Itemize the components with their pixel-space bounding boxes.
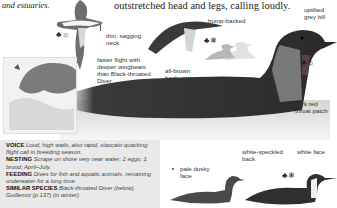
feeding-title: FEEDING xyxy=(6,171,32,177)
nesting-title: NESTING xyxy=(6,156,32,162)
voice-title: VOICE xyxy=(6,142,24,148)
label-throat-patch: dark red throat patch xyxy=(295,100,335,114)
head-season-icons: ♣☼ xyxy=(301,59,316,67)
species-info-box: VOICE Loud, high wails, also rapid, stac… xyxy=(0,140,160,208)
label-striped-nape: striped grey nape xyxy=(198,78,246,85)
intro-text-fragment: and estuaries. xyxy=(2,0,50,10)
flight-caption: outstretched head and legs, calling loud… xyxy=(114,0,290,11)
range-map xyxy=(3,57,77,134)
label-uptilted-bill: uptilted grey bill xyxy=(304,6,336,20)
summer-icon: ☼ xyxy=(307,58,315,67)
label-all-brown-back: all-brown back xyxy=(165,67,195,81)
feeding-entry: FEEDING Dives for fish and aquatic anima… xyxy=(6,171,156,185)
red-throated-diver-main-illustration xyxy=(40,30,337,145)
label-white-face: white face xyxy=(297,148,327,155)
label-speckled-back: white-speckled back xyxy=(242,148,292,162)
voice-entry: VOICE Loud, high wails, also rapid, stac… xyxy=(6,142,156,156)
similar-species-entry: SIMILAR SPECIES Black-throated Diver (be… xyxy=(6,185,156,199)
voice-text: Loud, high wails, also rapid, staccato q… xyxy=(6,142,147,155)
juvenile-diver-illustration xyxy=(170,170,245,208)
label-hump-backed: hump-backed xyxy=(208,17,246,24)
nesting-entry: NESTING Scrape on shore very near water;… xyxy=(6,156,156,170)
winter-adult-diver-illustration xyxy=(245,172,337,208)
similar-species-title: SIMILAR SPECIES xyxy=(6,185,57,191)
